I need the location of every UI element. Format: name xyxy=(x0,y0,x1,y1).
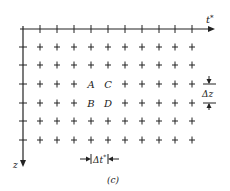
plus-icon xyxy=(172,62,178,69)
plus-icon xyxy=(156,137,162,144)
plus-icon xyxy=(37,137,43,144)
plus-icon xyxy=(156,44,162,51)
labeled-points: ACBD xyxy=(86,79,112,109)
plus-icon xyxy=(189,62,195,69)
plus-icon xyxy=(105,137,111,144)
plus-icon xyxy=(189,44,195,51)
t-axis-arrow-icon xyxy=(208,26,215,32)
point-label-c: C xyxy=(104,79,112,90)
plus-icon xyxy=(54,118,60,125)
plus-icon xyxy=(139,100,145,107)
finite-difference-grid-diagram: ACBD t* z Δz Δt* (c) xyxy=(0,0,230,191)
plus-icon xyxy=(156,100,162,107)
plus-icon xyxy=(105,44,111,51)
plus-icon xyxy=(172,100,178,107)
plus-icon xyxy=(189,81,195,88)
arrow-right-icon xyxy=(86,157,91,162)
plus-icon xyxy=(54,62,60,69)
plus-icon xyxy=(71,44,77,51)
plus-icon xyxy=(88,62,94,69)
point-label-d: D xyxy=(103,98,112,109)
plus-icon xyxy=(54,44,60,51)
plus-icon xyxy=(71,62,77,69)
plus-icon xyxy=(122,100,128,107)
plus-icon xyxy=(139,44,145,51)
plus-icon xyxy=(37,62,43,69)
figure-caption: (c) xyxy=(107,175,120,185)
plus-icon xyxy=(139,81,145,88)
plus-icon xyxy=(88,118,94,125)
plus-icon xyxy=(156,62,162,69)
z-axis-arrow-icon xyxy=(20,160,26,167)
point-label-b: B xyxy=(86,98,94,109)
plus-icon xyxy=(122,44,128,51)
delta-z-label: Δz xyxy=(201,89,213,99)
plus-icon xyxy=(139,118,145,125)
delta-t-label: Δt* xyxy=(92,153,106,165)
plus-icon xyxy=(71,118,77,125)
plus-icon xyxy=(71,100,77,107)
plus-icon xyxy=(139,62,145,69)
plus-icon xyxy=(54,81,60,88)
plus-icon xyxy=(54,137,60,144)
grid-points xyxy=(37,44,195,144)
plus-icon xyxy=(88,44,94,51)
plus-icon xyxy=(71,137,77,144)
plus-icon xyxy=(54,100,60,107)
point-label-a: A xyxy=(86,79,94,90)
plus-icon xyxy=(172,44,178,51)
z-axis-label: z xyxy=(12,160,18,170)
plus-icon xyxy=(172,118,178,125)
plus-icon xyxy=(88,137,94,144)
plus-icon xyxy=(189,118,195,125)
plus-icon xyxy=(71,81,77,88)
axes xyxy=(20,26,215,167)
plus-icon xyxy=(122,62,128,69)
plus-icon xyxy=(37,44,43,51)
plus-icon xyxy=(105,62,111,69)
plus-icon xyxy=(122,81,128,88)
plus-icon xyxy=(105,118,111,125)
plus-icon xyxy=(172,137,178,144)
plus-icon xyxy=(156,81,162,88)
plus-icon xyxy=(122,137,128,144)
plus-icon xyxy=(189,137,195,144)
plus-icon xyxy=(37,100,43,107)
plus-icon xyxy=(37,81,43,88)
plus-icon xyxy=(37,118,43,125)
arrow-up-icon xyxy=(207,103,212,108)
plus-icon xyxy=(156,118,162,125)
arrow-down-icon xyxy=(207,79,212,84)
plus-icon xyxy=(139,137,145,144)
t-axis-label: t* xyxy=(206,14,214,25)
plus-icon xyxy=(189,100,195,107)
plus-icon xyxy=(122,118,128,125)
plus-icon xyxy=(172,81,178,88)
arrow-left-icon xyxy=(108,157,113,162)
